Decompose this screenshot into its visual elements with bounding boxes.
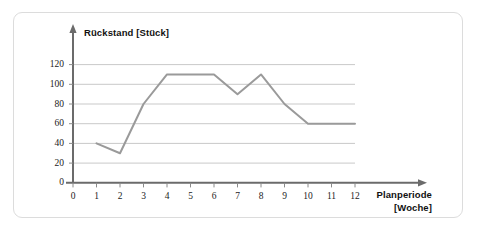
x-tick-label-10: 10 [298, 191, 318, 201]
y-tick-label-60: 60 [38, 118, 64, 128]
line-chart: 120 100 80 60 40 20 0 0 1 2 3 4 5 6 7 8 … [14, 13, 464, 219]
y-tick-label-40: 40 [38, 138, 64, 148]
x-tick-label-8: 8 [251, 191, 271, 201]
gridlines [73, 65, 355, 164]
x-axis-title-line2: [Woche] [344, 202, 432, 215]
x-tick-label-4: 4 [157, 191, 177, 201]
x-tick-label-5: 5 [181, 191, 201, 201]
chart-panel: 120 100 80 60 40 20 0 0 1 2 3 4 5 6 7 8 … [13, 12, 463, 218]
y-axis [69, 24, 76, 183]
x-tick-label-0: 0 [63, 191, 83, 201]
x-tick-label-7: 7 [228, 191, 248, 201]
x-tick-label-1: 1 [87, 191, 107, 201]
x-axis-title: Planperiode [Woche] [344, 189, 432, 214]
x-tick-label-6: 6 [204, 191, 224, 201]
y-tick-label-120: 120 [38, 59, 64, 69]
y-tick-label-80: 80 [38, 99, 64, 109]
x-tick-label-9: 9 [275, 191, 295, 201]
y-tick-label-20: 20 [38, 158, 64, 168]
x-axis-title-line1: Planperiode [344, 189, 432, 202]
y-axis-title: Rückstand [Stück] [84, 27, 169, 38]
data-series-line [97, 74, 356, 153]
x-tick-label-11: 11 [322, 191, 342, 201]
y-tick-label-0: 0 [38, 177, 64, 187]
x-tick-label-2: 2 [110, 191, 130, 201]
y-tick-label-100: 100 [38, 79, 64, 89]
x-tick-label-3: 3 [134, 191, 154, 201]
